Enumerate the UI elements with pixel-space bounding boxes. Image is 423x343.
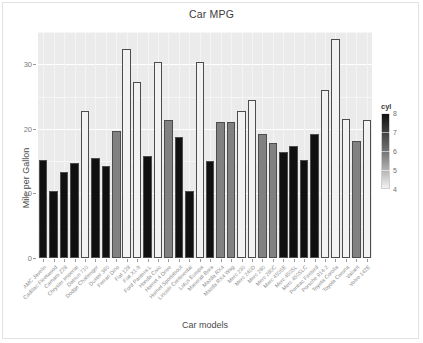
- bar: [279, 152, 288, 258]
- bar: [39, 160, 48, 258]
- legend-key-label: 8: [393, 110, 397, 117]
- bar: [112, 131, 121, 258]
- bar: [206, 161, 215, 258]
- bar: [227, 122, 236, 258]
- bar: [216, 122, 225, 258]
- plot-panel: [38, 32, 372, 258]
- x-tick-mark: [54, 259, 55, 262]
- bar: [248, 100, 257, 258]
- x-tick-mark: [64, 259, 65, 262]
- chart-screenshot: Car MPG Mile per Gallon 0102030 AMC Jave…: [0, 0, 423, 343]
- x-tick-mark: [356, 259, 357, 262]
- y-tick-mark: [33, 129, 36, 130]
- x-tick-mark: [95, 259, 96, 262]
- bar: [122, 49, 131, 258]
- x-tick-mark: [262, 259, 263, 262]
- bar: [269, 143, 278, 258]
- x-axis-title: Car models: [38, 320, 372, 330]
- legend-key-label: 7: [393, 129, 397, 136]
- bar: [185, 191, 194, 258]
- legend-key-label: 4: [393, 186, 397, 193]
- x-tick-mark: [325, 259, 326, 262]
- bar: [321, 90, 330, 258]
- x-tick-mark: [75, 259, 76, 262]
- legend-title: cyl: [381, 102, 391, 111]
- bar: [196, 62, 205, 258]
- x-tick-mark: [210, 259, 211, 262]
- x-tick-mark: [200, 259, 201, 262]
- x-tick-mark: [283, 259, 284, 262]
- bar: [81, 111, 90, 258]
- bar: [49, 191, 58, 258]
- bar: [91, 158, 100, 258]
- bar: [143, 156, 152, 258]
- x-tick-mark: [304, 259, 305, 262]
- bar-series: [38, 32, 372, 258]
- bar: [102, 166, 111, 258]
- x-tick-mark: [158, 259, 159, 262]
- legend-tick: [381, 132, 390, 133]
- legend-tick: [381, 170, 390, 171]
- bar: [175, 137, 184, 258]
- y-tick-label: 30: [4, 60, 32, 69]
- x-tick-mark: [335, 259, 336, 262]
- chart-title: Car MPG: [0, 8, 423, 20]
- y-tick-mark: [33, 64, 36, 65]
- x-tick-mark: [85, 259, 86, 262]
- y-tick-label: 0: [4, 254, 32, 263]
- bar: [258, 134, 267, 258]
- x-tick-mark: [148, 259, 149, 262]
- bar: [310, 134, 319, 258]
- x-tick-mark: [43, 259, 44, 262]
- bar: [331, 39, 340, 258]
- x-tick-mark: [252, 259, 253, 262]
- bar: [164, 120, 173, 258]
- x-tick-mark: [189, 259, 190, 262]
- legend-key-label: 6: [393, 148, 397, 155]
- x-tick-mark: [315, 259, 316, 262]
- x-tick-mark: [231, 259, 232, 262]
- bar: [70, 163, 79, 258]
- bar: [154, 62, 163, 258]
- bar: [60, 172, 69, 258]
- bar: [352, 141, 361, 258]
- bar: [300, 160, 309, 258]
- legend-tick: [381, 113, 390, 114]
- y-tick-mark: [33, 193, 36, 194]
- y-tick-label: 20: [4, 124, 32, 133]
- x-tick-mark: [221, 259, 222, 262]
- x-tick-mark: [367, 259, 368, 262]
- bar: [133, 82, 142, 258]
- x-tick-mark: [294, 259, 295, 262]
- y-tick-label: 10: [4, 189, 32, 198]
- x-tick-mark: [242, 259, 243, 262]
- x-tick-mark: [127, 259, 128, 262]
- legend-tick: [381, 189, 390, 190]
- legend-tick: [381, 151, 390, 152]
- x-tick-mark: [106, 259, 107, 262]
- x-tick-mark: [168, 259, 169, 262]
- bar: [342, 119, 351, 258]
- x-tick-mark: [273, 259, 274, 262]
- bar: [363, 120, 372, 258]
- x-tick-mark: [179, 259, 180, 262]
- bar: [289, 146, 298, 258]
- x-tick-mark: [346, 259, 347, 262]
- bar: [237, 111, 246, 258]
- legend-key-label: 5: [393, 167, 397, 174]
- y-tick-mark: [33, 258, 36, 259]
- x-tick-mark: [116, 259, 117, 262]
- x-tick-mark: [137, 259, 138, 262]
